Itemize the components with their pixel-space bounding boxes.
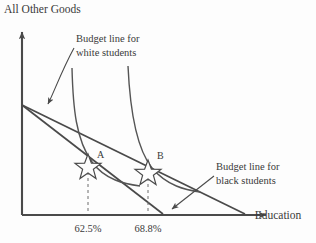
diagram-canvas: All Other Goods Education A B Budget lin…	[0, 0, 316, 243]
annotation-white-students-line1: Budget line for	[76, 33, 140, 44]
y-axis-title: All Other Goods	[4, 3, 81, 15]
point-label-b: B	[157, 150, 164, 161]
annotation-white-students-line2: white students	[76, 47, 136, 58]
tick-label-b: 68.8%	[134, 223, 161, 234]
x-axis-title: Education	[255, 209, 302, 221]
budget-line-black-students	[22, 105, 163, 214]
budget-line-diagram: All Other Goods Education A B Budget lin…	[0, 0, 316, 243]
annotation-black-students-line1: Budget line for	[216, 161, 280, 172]
tick-label-a: 62.5%	[74, 223, 101, 234]
point-label-a: A	[97, 149, 105, 160]
leader-line-white-students	[48, 48, 74, 104]
annotation-black-students-line2: black students	[216, 175, 276, 186]
